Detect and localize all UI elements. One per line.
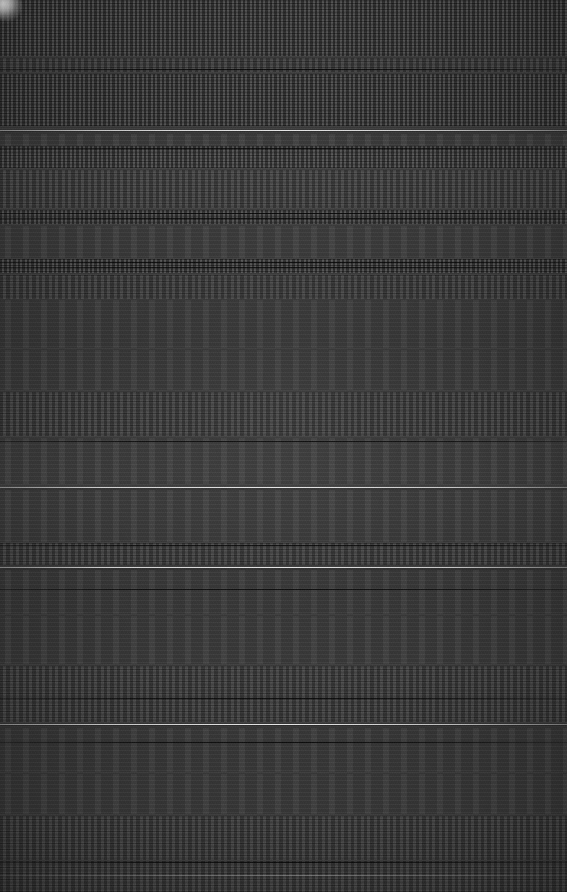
dark-scanline-streak [0,742,567,743]
background-luminance-layer [0,0,567,892]
dark-scanline-streak [0,69,567,70]
text-smear-band [0,350,567,390]
text-smear-band [0,300,567,348]
divider-rule [0,875,567,876]
text-smear-band [0,816,567,860]
text-smear-band [0,543,567,565]
screenshot-viewport: Dark-themed full-width text/document vie… [0,0,567,892]
text-smear-band [0,861,567,892]
dark-scanline-streak [0,218,567,219]
divider-rule [0,567,567,568]
text-smear-band [0,170,567,208]
text-smear-band [0,490,567,542]
text-smear-band [0,275,567,299]
dark-scanline-streak [0,267,567,268]
dark-scanline-streak [0,148,567,149]
top-left-bright-blob-icon [0,0,22,21]
divider-rule [0,724,567,725]
text-smear-band [0,728,567,772]
dark-scanline-streak [0,262,567,263]
dark-scanline-streak [0,589,567,590]
image-condition-note: Dark-themed full-width text/document vie… [0,0,1,1]
divider-rule [0,487,567,488]
text-smear-band [0,146,567,168]
text-smear-band [0,74,567,126]
text-smear-band [0,0,567,56]
dark-scanline-streak [0,698,567,699]
film-grain-layer [0,0,567,892]
dark-scanline-streak [0,862,567,863]
text-smear-band [0,666,567,696]
dark-scanline-streak [0,213,567,214]
text-smear-band [0,616,567,664]
vignette-layer [0,0,567,892]
text-smear-band [0,696,567,722]
text-smear-band [0,438,567,484]
text-smear-band [0,392,567,436]
text-smear-band [0,210,567,224]
scanline-texture-layer [0,0,567,892]
text-smear-band [0,226,567,258]
text-smear-band [0,259,567,273]
text-smear-band [0,134,567,146]
text-smear-band [0,570,567,614]
text-smear-band [0,774,567,814]
dark-scanline-streak [0,545,567,546]
dark-scanline-streak [0,441,567,442]
text-smear-band [0,58,567,72]
divider-rule [0,130,567,131]
